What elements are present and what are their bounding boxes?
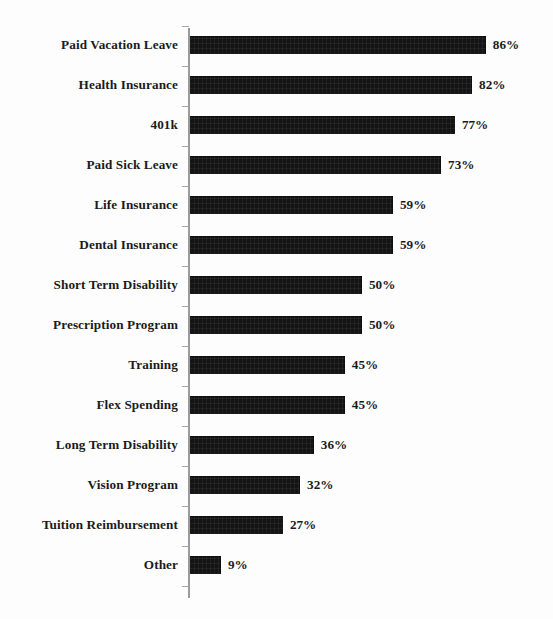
bar-value-label: 27%: [290, 518, 316, 531]
bar-row: Prescription Program50%: [0, 316, 553, 334]
bar-row: Flex Spending45%: [0, 396, 553, 414]
axis-tick: [182, 26, 189, 27]
bar-value-label: 36%: [321, 438, 347, 451]
category-label: Prescription Program: [0, 318, 178, 331]
category-label: Other: [0, 558, 178, 571]
bar: [190, 236, 393, 254]
category-label: Health Insurance: [0, 78, 178, 91]
bar-value-label: 73%: [448, 158, 474, 171]
bar: [190, 356, 345, 374]
bar-row: Health Insurance82%: [0, 76, 553, 94]
bar-row: Dental Insurance59%: [0, 236, 553, 254]
bar: [190, 276, 362, 294]
axis-tick: [182, 186, 189, 187]
axis-tick: [182, 386, 189, 387]
bar-value-label: 86%: [493, 38, 519, 51]
bar: [190, 476, 300, 494]
bar: [190, 556, 221, 574]
bar: [190, 156, 441, 174]
bar-value-label: 50%: [369, 318, 395, 331]
bar: [190, 516, 283, 534]
bar-value-label: 32%: [307, 478, 333, 491]
category-label: Vision Program: [0, 478, 178, 491]
axis-tick: [182, 226, 189, 227]
bar-row: Long Term Disability36%: [0, 436, 553, 454]
bar-row: Vision Program32%: [0, 476, 553, 494]
bar: [190, 76, 472, 94]
bar-row: Training45%: [0, 356, 553, 374]
bar: [190, 116, 455, 134]
bar: [190, 196, 393, 214]
axis-tick: [182, 106, 189, 107]
axis-tick: [182, 506, 189, 507]
bar-value-label: 59%: [400, 198, 426, 211]
category-axis-line: [188, 28, 190, 598]
axis-tick: [182, 346, 189, 347]
axis-tick: [182, 466, 189, 467]
bar-row: Tuition Reimbursement27%: [0, 516, 553, 534]
category-label: Paid Sick Leave: [0, 158, 178, 171]
category-label: 401k: [0, 118, 178, 131]
bar: [190, 36, 486, 54]
bar: [190, 396, 345, 414]
category-label: Training: [0, 358, 178, 371]
category-label: Paid Vacation Leave: [0, 38, 178, 51]
category-label: Tuition Reimbursement: [0, 518, 178, 531]
axis-tick: [182, 586, 189, 587]
axis-tick: [182, 426, 189, 427]
bar-value-label: 59%: [400, 238, 426, 251]
category-label: Dental Insurance: [0, 238, 178, 251]
category-label: Life Insurance: [0, 198, 178, 211]
bar: [190, 436, 314, 454]
bar-value-label: 45%: [352, 398, 378, 411]
benefits-bar-chart: Paid Vacation Leave86%Health Insurance82…: [0, 0, 553, 619]
bar-row: Life Insurance59%: [0, 196, 553, 214]
bar-row: Paid Sick Leave73%: [0, 156, 553, 174]
category-label: Short Term Disability: [0, 278, 178, 291]
axis-tick: [182, 66, 189, 67]
axis-tick: [182, 266, 189, 267]
axis-tick: [182, 546, 189, 547]
bar-value-label: 77%: [462, 118, 488, 131]
bar-row: Other9%: [0, 556, 553, 574]
axis-tick: [182, 146, 189, 147]
bar-row: Short Term Disability50%: [0, 276, 553, 294]
axis-tick: [182, 306, 189, 307]
category-label: Long Term Disability: [0, 438, 178, 451]
category-label: Flex Spending: [0, 398, 178, 411]
bar-value-label: 82%: [479, 78, 505, 91]
bar-value-label: 45%: [352, 358, 378, 371]
bar-value-label: 50%: [369, 278, 395, 291]
bar-value-label: 9%: [228, 558, 248, 571]
bar-row: 401k77%: [0, 116, 553, 134]
bar-row: Paid Vacation Leave86%: [0, 36, 553, 54]
bar: [190, 316, 362, 334]
